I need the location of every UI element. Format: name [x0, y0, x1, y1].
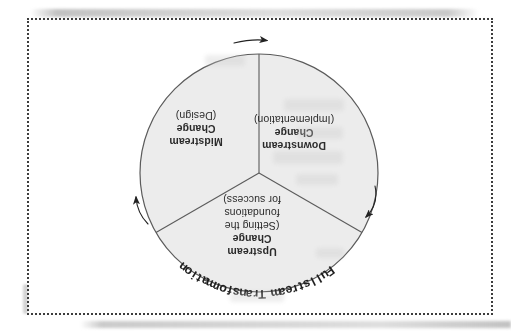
arc-letter: r: [253, 287, 258, 301]
upside-down-diagram-sheet: Upstream Change (Setting the foundations…: [0, 0, 511, 332]
arc-title-fullstream-transformation: Fullstream Transformation: [0, 0, 511, 332]
scanned-figure-page: Upstream Change (Setting the foundations…: [0, 0, 511, 332]
arc-letter: T: [258, 287, 266, 301]
